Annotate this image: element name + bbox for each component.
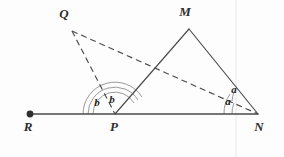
point-marker-R [27, 111, 34, 118]
angle-label-a-upper: a [231, 83, 237, 95]
vertex-label-N: N [253, 119, 264, 134]
vertex-label-Q: Q [59, 6, 69, 21]
angle-arc-n-inner [232, 103, 234, 114]
geometry-canvas: R P N Q M b b a a [0, 0, 284, 157]
angle-label-a-lower: a [225, 95, 231, 107]
segment-MN [189, 29, 258, 114]
vertex-label-R: R [23, 119, 33, 134]
angle-label-b-right: b [109, 93, 115, 105]
vertex-label-P: P [110, 119, 119, 134]
segment-PM [115, 29, 189, 114]
vertex-label-M: M [178, 4, 191, 19]
geometry-diagram: R P N Q M b b a a [0, 0, 284, 157]
angle-label-b-left: b [94, 96, 100, 108]
